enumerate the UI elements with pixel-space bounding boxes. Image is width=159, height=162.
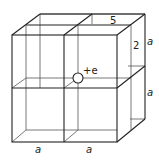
dimension-labels: 5 2 a a a a [35, 15, 153, 155]
label-right-inner: 2 [133, 40, 139, 51]
interior-edges [12, 25, 131, 142]
label-right-upper: a [147, 36, 153, 47]
cube-charge-diagram: +e 5 2 a a a a [0, 0, 159, 162]
top-face [12, 14, 145, 35]
label-top-depth: 5 [110, 15, 116, 26]
label-bottom-left: a [35, 144, 41, 155]
point-charge: +e [73, 65, 98, 83]
charge-label: +e [83, 65, 98, 76]
label-right-lower: a [147, 87, 153, 98]
front-face [12, 35, 117, 142]
charge-circle [73, 73, 83, 83]
label-bottom-right: a [86, 144, 92, 155]
